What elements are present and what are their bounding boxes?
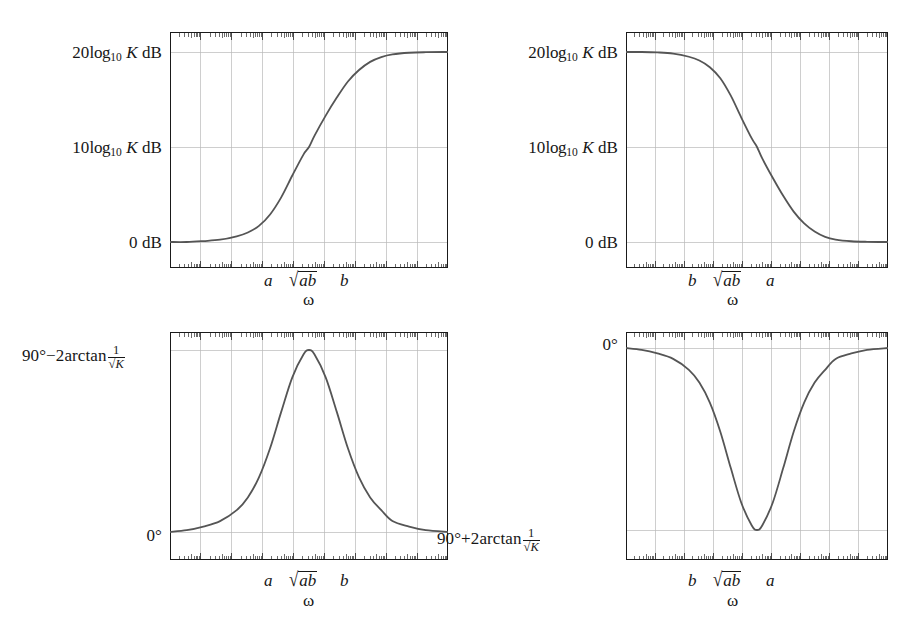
- ylabel-bottom-0db-right: 0 dB: [470, 234, 618, 251]
- plot-lead-magnitude: [170, 32, 448, 268]
- panel-lead-phase: [170, 332, 448, 560]
- plot-lead-phase: [170, 332, 448, 560]
- xtick-sqrtab-lead-mag: √ab: [289, 271, 317, 289]
- ylabel-mid-10logk-left: 10log10 K dB: [14, 139, 162, 159]
- ylabel-top-20logk-right: 20log10 K dB: [470, 44, 618, 64]
- xtick-sqrtab-lead-phase: √ab: [289, 571, 317, 589]
- xtick-a-lead-phase: a: [264, 572, 273, 589]
- xaxis-label-omega-lead-phase: ω: [303, 592, 314, 609]
- xtick-a-lead-mag: a: [264, 272, 273, 289]
- xtick-sqrtab-lag-phase: √ab: [713, 571, 741, 589]
- plot-lag-magnitude: [626, 32, 888, 268]
- plot-lag-phase: [626, 332, 888, 560]
- xtick-a-lag-phase: a: [766, 572, 775, 589]
- panel-lag-magnitude: [626, 32, 888, 268]
- ylabel-top-20logk-left: 20log10 K dB: [14, 44, 162, 64]
- xtick-b-lag-mag: b: [688, 272, 697, 289]
- xaxis-label-omega-lag-phase: ω: [727, 592, 738, 609]
- ylabel-top-0deg-lag-phase: 0°: [470, 336, 618, 353]
- xtick-a-lag-mag: a: [766, 272, 775, 289]
- bode-plot-figure: 20log10 K dB 10log10 K dB 0 dB a √ab b ω…: [0, 0, 904, 643]
- xaxis-label-omega-lead-mag: ω: [303, 291, 314, 308]
- panel-lead-magnitude: [170, 32, 448, 268]
- ylabel-mid-10logk-right: 10log10 K dB: [470, 139, 618, 159]
- xtick-b-lead-phase: b: [340, 572, 349, 589]
- ylabel-bottom-lag-phase: 90°+2arctan1√K: [437, 527, 540, 554]
- xaxis-label-omega-lag-mag: ω: [727, 291, 738, 308]
- panel-lag-phase: [626, 332, 888, 560]
- ylabel-bottom-0deg-lead-phase: 0°: [14, 527, 162, 544]
- ylabel-top-lead-phase: 90°−2arctan1√K: [22, 344, 125, 371]
- xtick-b-lag-phase: b: [688, 572, 697, 589]
- xtick-b-lead-mag: b: [340, 272, 349, 289]
- xtick-sqrtab-lag-mag: √ab: [713, 271, 741, 289]
- ylabel-bottom-0db-left: 0 dB: [14, 234, 162, 251]
